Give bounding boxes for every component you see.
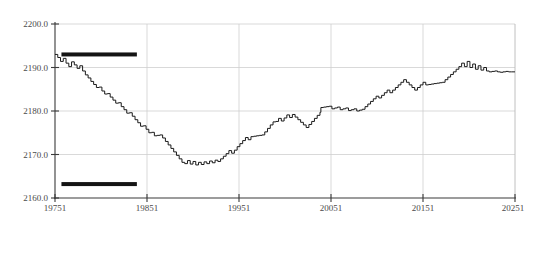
chart-footer: 9600 波特率 xyxy=(0,215,543,263)
ytick-label: 2170.0 xyxy=(23,150,48,160)
threshold-markers xyxy=(61,52,136,186)
ytick-label: 2190.0 xyxy=(23,63,48,73)
x-axis-tick-labels: 19751 19851 19951 20051 20151 20251 xyxy=(44,203,525,213)
xtick-label: 20051 xyxy=(320,203,343,213)
xtick-label: 19751 xyxy=(44,203,67,213)
upper-threshold-bar xyxy=(61,52,136,56)
baud-rate-chart-panel: 2200.0 2190.0 2180.0 2170.0 2160.0 19751… xyxy=(0,0,543,263)
xtick-label: 19851 xyxy=(136,203,159,213)
data-series-line xyxy=(55,54,515,164)
ytick-label: 2160.0 xyxy=(23,193,48,203)
chart-svg: 2200.0 2190.0 2180.0 2170.0 2160.0 19751… xyxy=(0,0,543,215)
ytick-label: 2180.0 xyxy=(23,106,48,116)
xtick-label: 20151 xyxy=(412,203,435,213)
xtick-label: 20251 xyxy=(502,203,525,213)
ytick-label: 2200.0 xyxy=(23,19,48,29)
horizontal-gridlines xyxy=(55,24,515,155)
lower-threshold-bar xyxy=(61,182,136,186)
chart-plot-area: 2200.0 2190.0 2180.0 2170.0 2160.0 19751… xyxy=(0,0,543,215)
y-axis-tick-labels: 2200.0 2190.0 2180.0 2170.0 2160.0 xyxy=(23,19,48,203)
xtick-label: 19951 xyxy=(228,203,251,213)
